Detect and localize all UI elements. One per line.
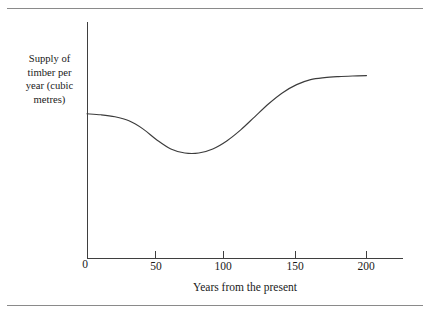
- x-tick-label-100: 100: [202, 260, 244, 273]
- x-axis-title: Years from the present: [87, 281, 403, 293]
- timber-supply-curve: [87, 76, 367, 154]
- y-axis-title-line-1: Supply of: [14, 52, 85, 66]
- x-tick-label-200: 200: [345, 260, 387, 273]
- y-axis-title-line-2: timber per: [14, 66, 85, 80]
- chart-figure: 0 50 100 150 200 Supply of timber per ye…: [0, 0, 430, 317]
- y-axis-title-line-3: year (cubic: [14, 79, 85, 93]
- y-axis-title-line-4: metres): [14, 93, 85, 107]
- x-tick-label-50: 50: [135, 260, 177, 273]
- y-axis-title: Supply of timber per year (cubic metres): [14, 52, 85, 107]
- x-axis-tick-marks: [156, 251, 367, 259]
- x-tick-label-150: 150: [274, 260, 316, 273]
- x-tick-label-origin: 0: [62, 258, 88, 271]
